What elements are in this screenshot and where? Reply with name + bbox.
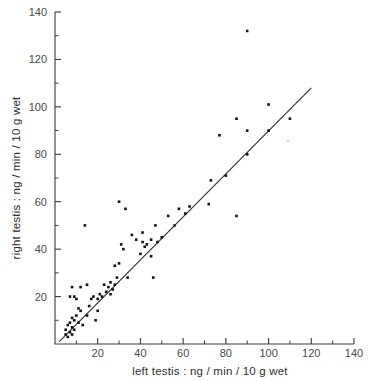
scatter-plot-figure: 20406080100120140 20406080100120140 left… bbox=[0, 0, 377, 381]
data-point bbox=[67, 324, 70, 327]
data-point bbox=[246, 129, 249, 132]
data-point bbox=[107, 286, 110, 289]
data-point bbox=[96, 298, 99, 301]
data-point bbox=[154, 224, 157, 227]
data-point bbox=[101, 295, 104, 298]
data-point bbox=[218, 134, 221, 137]
x-tick-label-60: 60 bbox=[177, 347, 189, 359]
data-point bbox=[141, 241, 144, 244]
data-point bbox=[235, 215, 238, 218]
data-point bbox=[92, 295, 95, 298]
data-point bbox=[210, 179, 213, 182]
data-point bbox=[77, 321, 80, 324]
data-point bbox=[150, 255, 153, 258]
data-point bbox=[69, 331, 72, 334]
data-point bbox=[109, 281, 112, 284]
data-point bbox=[69, 321, 72, 324]
data-point bbox=[116, 276, 119, 279]
data-point bbox=[143, 245, 146, 248]
data-point bbox=[246, 30, 249, 33]
x-axis-major-ticks bbox=[98, 338, 354, 344]
data-point bbox=[156, 241, 159, 244]
data-point bbox=[75, 298, 78, 301]
data-point bbox=[71, 333, 74, 336]
data-point bbox=[184, 212, 187, 215]
data-point bbox=[86, 314, 89, 317]
y-axis-major-ticks bbox=[55, 12, 61, 297]
data-point bbox=[64, 328, 67, 331]
data-point bbox=[135, 238, 138, 241]
data-point bbox=[225, 174, 228, 177]
data-point bbox=[103, 283, 106, 286]
data-point bbox=[90, 298, 93, 301]
data-point bbox=[120, 243, 123, 246]
data-point bbox=[150, 238, 153, 241]
x-tick-label-20: 20 bbox=[92, 347, 104, 359]
data-point bbox=[69, 295, 72, 298]
data-point bbox=[75, 314, 78, 317]
data-point bbox=[267, 129, 270, 132]
data-point bbox=[141, 231, 144, 234]
x-tick-label-140: 140 bbox=[345, 347, 363, 359]
data-point bbox=[146, 243, 149, 246]
data-point bbox=[139, 253, 142, 256]
data-point bbox=[173, 224, 176, 227]
plot-canvas: 20406080100120140 20406080100120140 left… bbox=[0, 0, 377, 381]
data-point bbox=[126, 276, 129, 279]
data-point bbox=[71, 317, 74, 320]
data-point bbox=[73, 328, 76, 331]
y-axis-title: right testis : ng / min / 10 g wet bbox=[10, 96, 22, 259]
x-tick-label-100: 100 bbox=[259, 347, 277, 359]
x-tick-label-40: 40 bbox=[134, 347, 146, 359]
data-point bbox=[114, 264, 117, 267]
y-tick-label-60: 60 bbox=[35, 196, 47, 208]
data-point bbox=[81, 324, 84, 327]
data-point bbox=[118, 262, 121, 265]
data-point bbox=[160, 236, 163, 239]
data-point bbox=[109, 293, 112, 296]
data-point bbox=[84, 224, 87, 227]
y-tick-label-80: 80 bbox=[35, 148, 47, 160]
data-point bbox=[235, 117, 238, 120]
data-point bbox=[124, 208, 127, 211]
data-point bbox=[64, 333, 67, 336]
x-axis-tick-labels: 20406080100120140 bbox=[92, 347, 364, 359]
data-point bbox=[118, 200, 121, 203]
data-point bbox=[73, 319, 76, 322]
data-point bbox=[167, 215, 170, 218]
data-point bbox=[96, 310, 99, 313]
y-axis-tick-labels: 20406080100120140 bbox=[29, 6, 47, 303]
data-point bbox=[105, 291, 108, 294]
data-point bbox=[94, 319, 97, 322]
print-artifact-mark bbox=[287, 140, 289, 142]
data-point bbox=[71, 286, 74, 289]
data-point bbox=[207, 203, 210, 206]
data-point bbox=[131, 234, 134, 237]
data-point bbox=[289, 117, 292, 120]
data-point bbox=[122, 248, 125, 251]
data-point bbox=[88, 305, 91, 308]
y-tick-label-140: 140 bbox=[29, 6, 47, 18]
x-tick-label-120: 120 bbox=[302, 347, 320, 359]
data-point bbox=[99, 293, 102, 296]
data-point bbox=[71, 326, 74, 329]
y-tick-label-100: 100 bbox=[29, 101, 47, 113]
x-tick-label-80: 80 bbox=[220, 347, 232, 359]
data-point bbox=[267, 103, 270, 106]
data-point bbox=[111, 288, 114, 291]
data-point bbox=[79, 310, 82, 313]
y-tick-label-40: 40 bbox=[35, 243, 47, 255]
data-point bbox=[79, 286, 82, 289]
y-tick-label-120: 120 bbox=[29, 53, 47, 65]
data-point bbox=[73, 295, 76, 298]
data-point bbox=[246, 153, 249, 156]
data-point bbox=[86, 283, 89, 286]
data-point bbox=[114, 283, 117, 286]
data-point bbox=[67, 336, 70, 339]
x-axis-title: left testis : ng / min / 10 g wet bbox=[132, 365, 288, 377]
data-point bbox=[188, 205, 191, 208]
y-tick-label-20: 20 bbox=[35, 291, 47, 303]
data-point bbox=[152, 276, 155, 279]
data-point bbox=[77, 307, 80, 310]
data-points bbox=[64, 30, 291, 339]
